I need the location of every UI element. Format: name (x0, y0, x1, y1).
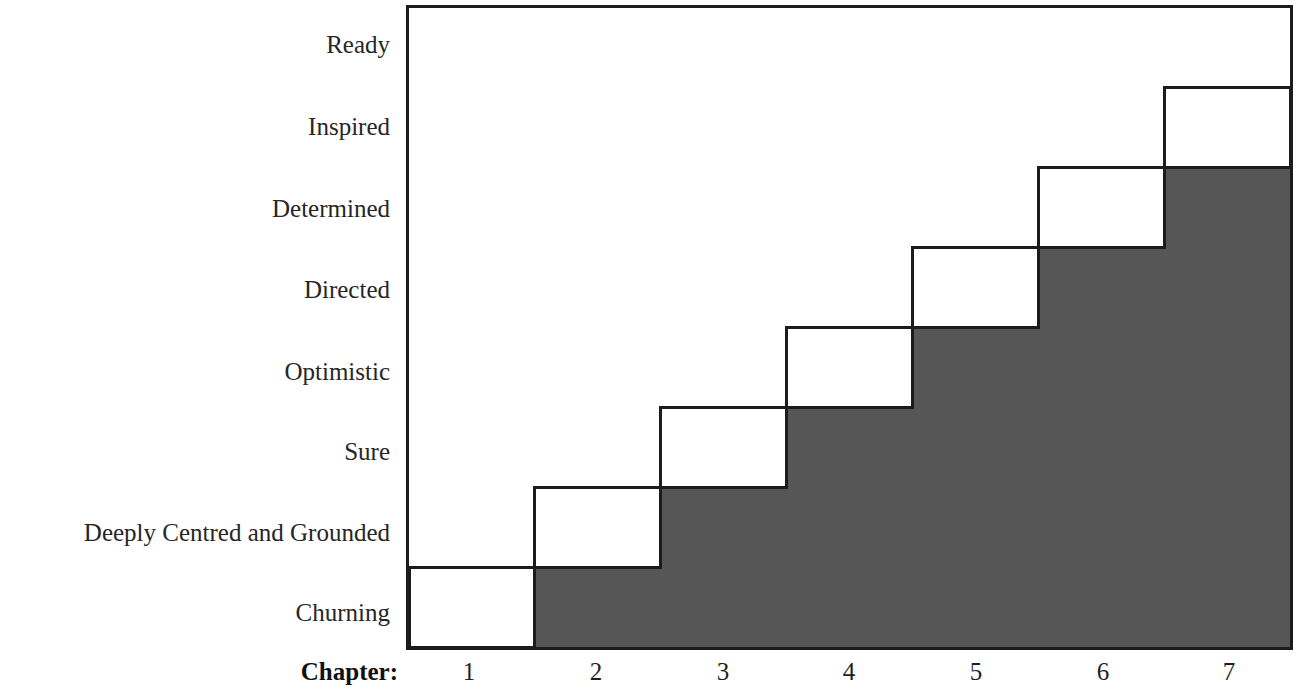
y-axis-tick-label: Sure (344, 438, 390, 466)
y-axis-label-group: ReadyInspiredDeterminedDirectedOptimisti… (0, 0, 398, 660)
x-axis-tick-label: 7 (1199, 652, 1259, 692)
y-axis-tick-label: Directed (304, 276, 390, 304)
x-axis-tick-label: 6 (1073, 652, 1133, 692)
chart-figure: ReadyInspiredDeterminedDirectedOptimisti… (0, 0, 1297, 695)
x-axis-tick-label: 1 (439, 652, 499, 692)
y-axis-tick-label: Churning (296, 599, 390, 627)
step-box-chapter-3 (661, 407, 787, 487)
plot-inner (409, 8, 1290, 647)
step-box-chapter-1 (409, 567, 535, 647)
x-axis-tick-label: 4 (819, 652, 879, 692)
staircase-series (409, 8, 1290, 647)
x-axis-tick-label: 3 (693, 652, 753, 692)
step-box-chapter-6 (1038, 168, 1164, 248)
step-box-chapter-5 (912, 248, 1038, 328)
y-axis-tick-label: Determined (272, 195, 390, 223)
step-box-chapter-2 (535, 487, 661, 567)
x-axis-title: Chapter: (252, 652, 398, 692)
y-axis-tick-label: Ready (326, 31, 390, 59)
x-axis-tick-label: 2 (566, 652, 626, 692)
y-axis-tick-label: Deeply Centred and Grounded (84, 519, 390, 547)
y-axis-tick-label: Inspired (308, 113, 390, 141)
plot-area (406, 5, 1293, 650)
y-axis-tick-label: Optimistic (284, 358, 390, 386)
x-axis-tick-group: 1234567 (406, 652, 1293, 695)
step-box-chapter-7 (1164, 88, 1290, 168)
step-box-chapter-4 (787, 328, 913, 408)
x-axis-tick-label: 5 (946, 652, 1006, 692)
